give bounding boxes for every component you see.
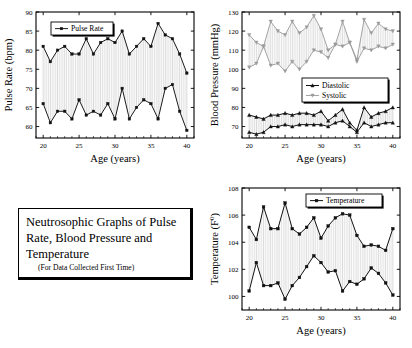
data-point-marker xyxy=(78,53,81,56)
data-point-marker xyxy=(320,237,323,240)
data-point-marker xyxy=(128,118,131,121)
data-point-marker xyxy=(384,249,387,252)
data-point-marker xyxy=(348,280,351,283)
legend: Pulse Rate xyxy=(51,22,115,37)
x-tick-label: 40 xyxy=(389,314,397,322)
data-point-marker xyxy=(362,121,365,124)
x-tick-label: 20 xyxy=(246,142,254,150)
y-tick-label: 60 xyxy=(26,123,34,131)
x-axis-title: Age (years) xyxy=(90,153,140,165)
data-point-marker xyxy=(391,227,394,230)
data-point-marker xyxy=(327,225,330,228)
y-axis-title-group: Temperature (F0) xyxy=(208,213,221,285)
data-point-marker xyxy=(298,233,301,236)
data-point-marker xyxy=(370,49,373,52)
caption-line-3: Temperature xyxy=(26,246,184,262)
data-point-marker xyxy=(150,102,153,105)
figure-caption-subtitle: (For Data Collected First Time) xyxy=(26,263,184,272)
data-point-marker xyxy=(56,49,59,52)
data-point-marker xyxy=(107,102,110,105)
data-point-marker xyxy=(114,41,117,44)
x-tick-label: 30 xyxy=(112,142,120,150)
data-point-marker xyxy=(341,45,344,48)
data-point-marker xyxy=(384,47,387,50)
data-point-marker xyxy=(327,271,330,274)
y-tick-label: 102 xyxy=(228,266,239,274)
x-tick-label: 20 xyxy=(246,314,254,322)
data-point-marker xyxy=(171,83,174,86)
data-point-marker xyxy=(247,66,250,69)
data-point-marker xyxy=(78,99,81,102)
y-tick-label: 130 xyxy=(228,9,239,17)
data-point-marker xyxy=(298,68,301,71)
data-point-marker xyxy=(384,282,387,285)
data-point-marker xyxy=(186,72,189,75)
data-point-marker xyxy=(391,30,394,33)
data-point-marker xyxy=(363,245,366,248)
data-point-marker xyxy=(277,282,280,285)
data-point-marker xyxy=(377,245,380,248)
data-point-marker xyxy=(63,110,66,113)
data-point-marker xyxy=(312,216,315,219)
data-point-marker xyxy=(370,32,373,35)
data-point-marker xyxy=(121,87,124,90)
y-tick-label: 80 xyxy=(26,47,34,55)
y-tick-label: 75 xyxy=(26,66,34,74)
x-tick-label: 25 xyxy=(282,314,290,322)
data-point-marker xyxy=(391,294,394,297)
x-tick-label: 30 xyxy=(318,314,326,322)
legend: DiastolicSystolic xyxy=(302,78,390,104)
y-axis-title: Temperature (F0) xyxy=(208,213,221,285)
neutrosophic-band-hatch xyxy=(43,23,187,130)
y-tick-label: 120 xyxy=(228,28,239,36)
data-point-marker xyxy=(157,118,160,121)
data-point-marker xyxy=(262,206,265,209)
data-point-marker xyxy=(356,234,359,237)
y-tick-label: 70 xyxy=(232,123,240,131)
data-point-marker xyxy=(363,277,366,280)
x-tick-label: 35 xyxy=(353,314,361,322)
pulse-rate-chart-panel: 202530354060657075808590Age (years)Pulse… xyxy=(0,0,206,174)
data-point-marker xyxy=(341,290,344,293)
data-point-marker xyxy=(269,64,272,67)
data-point-marker xyxy=(355,60,358,63)
data-point-marker xyxy=(49,121,52,124)
data-point-marker xyxy=(135,106,138,109)
data-point-marker xyxy=(92,53,95,56)
temperature-chart: 2025303540100102104106108Age (years)Temp… xyxy=(206,174,412,348)
data-point-marker xyxy=(348,214,351,217)
x-tick-label: 20 xyxy=(40,142,48,150)
data-point-marker xyxy=(92,110,95,113)
data-point-marker xyxy=(135,45,138,48)
data-point-marker xyxy=(319,109,322,112)
x-tick-label: 25 xyxy=(76,142,84,150)
blood-pressure-chart: 2025303540708090100110120130Age (years)B… xyxy=(206,0,412,174)
data-point-marker xyxy=(56,110,59,113)
data-point-marker xyxy=(334,216,337,219)
data-point-marker xyxy=(319,28,322,31)
data-point-marker xyxy=(362,106,365,109)
data-point-marker xyxy=(49,60,52,63)
y-tick-label: 100 xyxy=(228,293,239,301)
data-point-marker xyxy=(326,49,329,52)
data-point-marker xyxy=(341,212,344,215)
data-point-marker xyxy=(107,37,110,40)
data-point-marker xyxy=(171,37,174,40)
data-point-marker xyxy=(298,276,301,279)
y-tick-label: 100 xyxy=(228,66,239,74)
legend-label: Pulse Rate xyxy=(71,24,104,33)
data-point-marker xyxy=(85,114,88,117)
legend-label: Temperature xyxy=(326,196,365,205)
x-tick-label: 35 xyxy=(147,142,155,150)
data-point-marker xyxy=(305,226,308,229)
pulse-rate-chart: 202530354060657075808590Age (years)Pulse… xyxy=(0,0,206,174)
data-series-1 xyxy=(248,254,394,300)
legend: Temperature xyxy=(306,194,384,209)
data-point-marker xyxy=(370,244,373,247)
y-tick-label: 110 xyxy=(228,47,239,55)
data-point-marker xyxy=(284,298,287,301)
y-tick-label: 70 xyxy=(26,85,34,93)
data-point-marker xyxy=(164,87,167,90)
data-point-marker xyxy=(85,37,88,40)
data-point-marker xyxy=(262,284,265,287)
